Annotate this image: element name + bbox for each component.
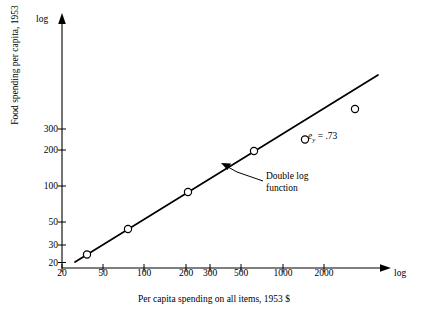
data-point xyxy=(124,225,131,232)
y-tick-label-20: 20 xyxy=(49,258,59,268)
elasticity-subscript: y xyxy=(312,136,315,144)
y-axis-scale-label: log xyxy=(36,14,48,24)
data-point xyxy=(83,251,90,258)
y-axis-arrow-icon xyxy=(58,13,66,24)
x-tick-label-1000: 1000 xyxy=(274,268,293,278)
y-tick-label-100: 100 xyxy=(44,181,58,191)
x-tick-label-100: 100 xyxy=(137,268,151,278)
x-axis-arrow-icon xyxy=(380,264,391,272)
log-log-chart-figure: log log 20 30 50 100 200 300 20 50 100 2… xyxy=(0,0,428,318)
data-markers xyxy=(83,105,358,258)
y-tick-label-50: 50 xyxy=(49,217,59,227)
x-tick-label-200: 200 xyxy=(179,268,193,278)
y-tick-label-30: 30 xyxy=(49,240,59,250)
x-tick-label-2000: 2000 xyxy=(315,268,334,278)
x-tick-label-300: 300 xyxy=(203,268,217,278)
elasticity-annotation: ey = .73 xyxy=(308,131,337,144)
x-axis-title: Per capita spending on all items, 1953 $ xyxy=(0,294,428,304)
data-point xyxy=(250,147,257,154)
y-tick-label-300: 300 xyxy=(44,124,58,134)
fit-line-callout-leader xyxy=(221,163,263,181)
x-tick-label-20: 20 xyxy=(57,268,67,278)
x-tick-label-500: 500 xyxy=(234,268,248,278)
x-tick-label-50: 50 xyxy=(98,268,108,278)
y-axis xyxy=(58,13,66,268)
y-tick-label-200: 200 xyxy=(44,145,58,155)
data-point xyxy=(184,188,191,195)
y-axis-title: Food spending per capita, 1953 xyxy=(10,0,20,165)
fit-line-callout-label: Double log function xyxy=(266,171,308,195)
fit-line-callout-line1: Double log xyxy=(266,171,308,183)
elasticity-equals: = xyxy=(318,131,323,141)
fit-line-callout-line2: function xyxy=(266,183,308,195)
data-point xyxy=(351,105,358,112)
x-axis xyxy=(62,264,391,272)
x-axis-scale-label: log xyxy=(394,268,406,278)
elasticity-value: .73 xyxy=(325,131,337,141)
